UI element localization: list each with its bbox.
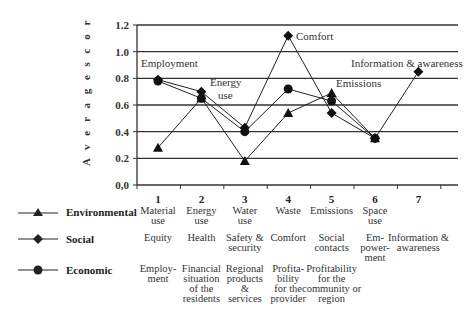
y-tick-label: 0.6 (115, 99, 129, 111)
circle-marker-icon (18, 265, 58, 275)
y-tick-label: 0.2 (115, 152, 129, 164)
legend-social: Social (18, 233, 94, 245)
indicator-economic: Employ-ment (135, 264, 181, 284)
circle-marker (154, 77, 163, 86)
indicator-environmental: Energyuse (178, 206, 224, 226)
indicator-economic: Profitabilityfor thecommunity orregion (301, 264, 363, 304)
indicator-social: Equity (135, 233, 181, 243)
circle-marker (327, 97, 336, 106)
indicator-environmental: Waste (265, 206, 311, 216)
series-line-economic (158, 81, 375, 138)
indicator-social: Safety &security (222, 233, 268, 253)
triangle-marker-icon (18, 207, 58, 217)
x-tick-label: 4 (278, 193, 298, 205)
indicator-environmental: Emissions (309, 206, 355, 216)
y-tick-label: 0.8 (115, 72, 129, 84)
annotation-energy1: Energy (210, 76, 242, 88)
x-tick-label: 1 (148, 193, 168, 205)
diamond-marker (327, 108, 337, 118)
legend-label: Environmental (66, 206, 137, 218)
y-tick-label: 1.2 (115, 19, 129, 31)
x-tick-label: 2 (191, 193, 211, 205)
y-tick-label: 0.4 (115, 126, 129, 138)
diamond-marker-icon (18, 234, 58, 244)
y-tick-label: 0,0 (115, 179, 129, 191)
y-axis-label: A v e r a g e s c o r (80, 46, 92, 166)
x-tick-label: 5 (322, 193, 342, 205)
indicator-economic: Financialsituationof theresidents (178, 264, 224, 304)
x-tick-label: 3 (235, 193, 255, 205)
legend-label: Economic (66, 264, 112, 276)
y-tick-label: 1.0 (115, 46, 129, 58)
annotation-info: Information & awareness (351, 57, 463, 69)
indicator-environmental: Spaceuse (352, 206, 398, 226)
series-line-environmental (158, 93, 375, 161)
triangle-marker (327, 88, 337, 97)
circle-marker (371, 134, 380, 143)
indicator-social: Health (178, 233, 224, 243)
x-tick-label: 6 (365, 193, 385, 205)
indicator-economic: Regionalproducts&services (222, 264, 268, 304)
circle-marker (284, 85, 293, 94)
annotation-comfort: Comfort (296, 30, 333, 42)
indicator-environmental: Materialuse (135, 206, 181, 226)
annotation-emissions: Emissions (336, 77, 381, 89)
indicator-environmental: Wateruse (222, 206, 268, 226)
circle-marker (197, 94, 206, 103)
triangle-marker (283, 108, 293, 117)
indicator-social: Information &awareness (387, 233, 449, 253)
legend-environmental: Environmental (18, 206, 137, 218)
x-tick-label: 7 (408, 193, 428, 205)
legend-economic: Economic (18, 264, 112, 276)
indicator-social: Socialcontacts (309, 233, 355, 253)
indicator-social: Comfort (265, 233, 311, 243)
annotation-employment: Employment (141, 57, 198, 69)
circle-marker (240, 127, 249, 136)
diamond-marker (283, 31, 293, 41)
legend-label: Social (66, 233, 94, 245)
annotation-energy2: use (218, 89, 233, 101)
